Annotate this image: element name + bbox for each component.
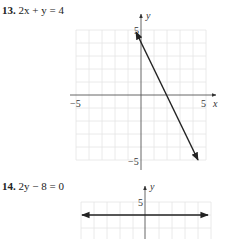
graph-14: y 5 [81,181,211,239]
graph-13: y x −5 5 5 −5 [70,10,218,170]
x-axis-label-13: x [212,98,218,109]
tick-y-pos-14: 5 [138,197,143,208]
tick-x-pos-13: 5 [201,98,206,109]
grid-14 [81,202,211,239]
tick-y-neg-13: −5 [128,156,139,167]
tick-x-neg-13: −5 [70,98,81,109]
y-axis-label-14: y [149,181,155,192]
graphs-canvas: y x −5 5 5 −5 y 5 [0,0,230,239]
y-axis-label-13: y [145,10,151,21]
